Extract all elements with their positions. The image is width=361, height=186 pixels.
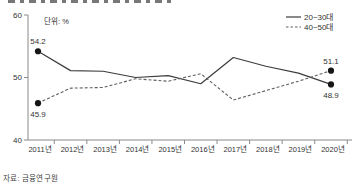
- x-tick-label: 2015년: [158, 144, 182, 154]
- series-line-1: [38, 71, 331, 104]
- data-point-label: 48.9: [323, 91, 339, 100]
- line-chart: 4050602011년2012년2013년2014년2015년2016년2017…: [0, 0, 361, 166]
- chart-figure: 4050602011년2012년2013년2014년2015년2016년2017…: [0, 0, 361, 186]
- data-point-marker: [35, 48, 41, 54]
- data-point-marker: [328, 68, 334, 74]
- chart-canvas: 4050602011년2012년2013년2014년2015년2016년2017…: [0, 0, 361, 166]
- legend-label: 20~30대: [304, 13, 333, 22]
- data-point-marker: [328, 81, 334, 87]
- x-tick-label: 2013년: [93, 144, 117, 154]
- x-tick-label: 2020년: [321, 144, 345, 154]
- x-tick-label: 2012년: [61, 144, 85, 154]
- x-tick-label: 2017년: [223, 144, 247, 154]
- source-caption: 자료: 금융연구원: [3, 172, 58, 183]
- x-tick-label: 2011년: [28, 144, 51, 154]
- data-point-marker: [35, 100, 41, 106]
- data-point-label: 54.2: [30, 37, 46, 46]
- y-tick-label: 50: [13, 73, 22, 82]
- unit-label: 단위: %: [44, 16, 69, 26]
- x-tick-label: 2019년: [289, 144, 313, 154]
- x-tick-label: 2016년: [191, 144, 215, 154]
- series-line-0: [38, 51, 331, 84]
- x-tick-label: 2014년: [126, 144, 150, 154]
- y-tick-label: 60: [13, 11, 22, 20]
- legend-label: 40~50대: [304, 23, 333, 32]
- y-tick-label: 40: [13, 136, 22, 145]
- data-point-label: 51.1: [323, 57, 339, 66]
- data-point-label: 45.9: [30, 110, 46, 119]
- x-tick-label: 2018년: [256, 144, 280, 154]
